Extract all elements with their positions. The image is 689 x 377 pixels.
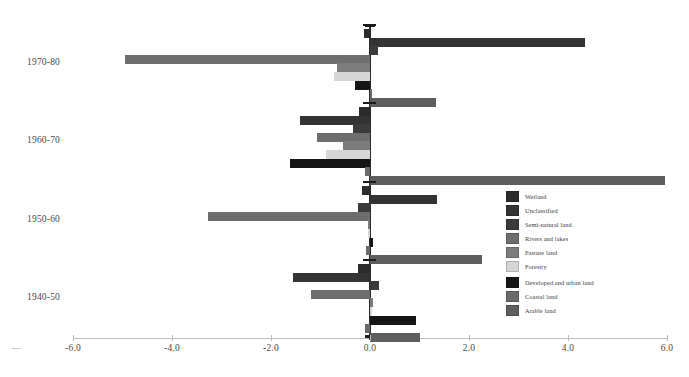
bar xyxy=(311,290,370,299)
category-group-tick xyxy=(363,259,376,261)
legend-item[interactable]: Developed and urban land xyxy=(506,277,676,290)
category-group-tick xyxy=(363,181,376,183)
category-group-tick xyxy=(363,24,376,26)
plot-area: -6.0-4.0-2.00.02.04.06.0 1970-801960-701… xyxy=(0,0,689,377)
legend-item-label: Arable land xyxy=(525,307,556,314)
bar xyxy=(208,212,370,221)
x-axis-tick-label: 4.0 xyxy=(538,343,598,353)
legend-item[interactable]: Arable land xyxy=(506,305,676,318)
legend-swatch-icon xyxy=(506,233,519,244)
legend-item-label: Pasture land xyxy=(525,249,557,256)
legend-swatch-icon xyxy=(506,291,519,302)
legend-item-label: Semi-natural land xyxy=(525,221,572,228)
x-axis-tick xyxy=(469,335,470,341)
x-axis-tick-label: -4.0 xyxy=(142,343,202,353)
horizontal-bar-chart: -6.0-4.0-2.00.02.04.06.0 1970-801960-701… xyxy=(0,0,689,377)
bar xyxy=(370,238,373,247)
legend-swatch-icon xyxy=(506,277,519,288)
legend-item[interactable]: Wetland xyxy=(506,190,676,203)
bar xyxy=(370,255,482,264)
legend-swatch-icon xyxy=(506,247,519,258)
bar xyxy=(370,46,378,55)
legend-item[interactable]: Rivers and lakes xyxy=(506,232,676,245)
x-axis-tick-label: 6.0 xyxy=(637,343,689,353)
x-axis-tick xyxy=(172,335,173,341)
bar xyxy=(290,159,370,168)
bar xyxy=(370,316,416,325)
y-axis-category-label: 1970-80 xyxy=(27,57,97,67)
x-axis-tick xyxy=(667,335,668,341)
legend-swatch-icon xyxy=(506,305,519,316)
x-axis-tick xyxy=(73,335,74,341)
legend-swatch-icon xyxy=(506,261,519,272)
figure-corner-mark xyxy=(12,348,21,349)
category-group-tick xyxy=(363,102,376,104)
x-axis-tick-label: -2.0 xyxy=(241,343,301,353)
x-axis-tick-label: 0.0 xyxy=(340,343,400,353)
y-axis-category-label: 1940-50 xyxy=(27,292,97,302)
legend-swatch-icon xyxy=(506,191,519,202)
legend-item-label: Forestry xyxy=(525,263,547,270)
legend-item-label: Coastal land xyxy=(525,293,558,300)
legend-item-label: Developed and urban land xyxy=(525,279,594,286)
bar xyxy=(125,55,370,64)
bar xyxy=(355,81,370,90)
bar xyxy=(370,98,436,107)
x-axis-tick-label: -6.0 xyxy=(43,343,103,353)
bar xyxy=(370,38,585,47)
x-axis-tick xyxy=(370,335,371,341)
legend-item[interactable]: Semi-natural land xyxy=(506,218,676,231)
bar xyxy=(370,281,379,290)
bar xyxy=(370,333,420,342)
legend-item-label: Unclassified xyxy=(525,207,558,214)
bar xyxy=(370,195,437,204)
x-axis-tick xyxy=(568,335,569,341)
bar xyxy=(293,273,370,282)
y-axis-category-label: 1960-70 xyxy=(27,135,97,145)
legend-item-label: Wetland xyxy=(525,193,547,200)
legend-swatch-icon xyxy=(506,219,519,230)
bar xyxy=(362,186,370,195)
legend-swatch-icon xyxy=(506,205,519,216)
bar xyxy=(370,176,665,185)
legend-item[interactable]: Forestry xyxy=(506,260,676,273)
chart-legend: WetlandUnclassifiedSemi-natural landRive… xyxy=(506,190,676,319)
x-axis-tick xyxy=(271,335,272,341)
legend-item[interactable]: Pasture land xyxy=(506,246,676,259)
legend-item[interactable]: Unclassified xyxy=(506,204,676,217)
legend-item-label: Rivers and lakes xyxy=(525,235,568,242)
x-axis-tick-label: 2.0 xyxy=(439,343,499,353)
y-axis-category-label: 1950-60 xyxy=(27,214,97,224)
legend-item[interactable]: Coastal land xyxy=(506,291,676,304)
